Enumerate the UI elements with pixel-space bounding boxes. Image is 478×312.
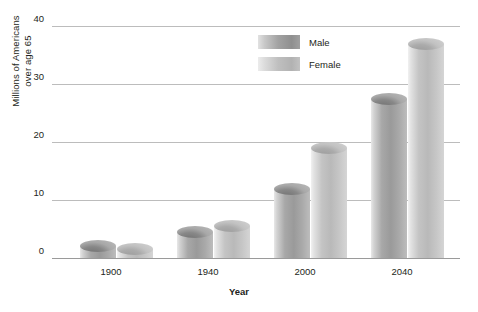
y-tick-label-40: 40: [33, 13, 44, 26]
bar-top-ellipse: [274, 183, 310, 195]
bar-body: [371, 99, 407, 258]
bar-2040-male: [371, 93, 407, 258]
bar-1940-male: [177, 226, 213, 258]
bar-body: [408, 44, 444, 258]
bar-1900-female: [117, 243, 153, 258]
bar-group-1900: [80, 26, 166, 258]
x-tick-label-1900: 1900: [71, 266, 151, 277]
legend-label-male: Male: [309, 37, 330, 48]
bar-body: [311, 148, 347, 258]
x-tick-label-1940: 1940: [168, 266, 248, 277]
legend-item-male: Male: [258, 33, 341, 51]
bar-2000-male: [274, 183, 310, 258]
bar-group-1940: [177, 26, 263, 258]
legend-swatch-male-icon: [258, 35, 300, 49]
legend-item-female: Female: [258, 55, 341, 73]
bar-series-container: [52, 26, 460, 258]
y-tick-label-30: 30: [33, 71, 44, 84]
bar-top-ellipse: [408, 38, 444, 50]
y-tick-label-10: 10: [33, 187, 44, 200]
bar-top-ellipse: [214, 220, 250, 232]
bar-top-ellipse: [117, 243, 153, 255]
gridline-0-baseline: 0: [52, 258, 460, 259]
x-axis-title: Year: [0, 286, 478, 297]
bar-top-ellipse: [80, 240, 116, 252]
bar-1900-male: [80, 240, 116, 258]
y-tick-label-20: 20: [33, 129, 44, 142]
chart-legend: Male Female: [258, 33, 341, 77]
bar-body: [274, 189, 310, 258]
x-tick-label-2040: 2040: [362, 266, 442, 277]
bar-2040-female: [408, 38, 444, 258]
plot-area: 40 30 20 10 0: [52, 26, 460, 258]
y-axis-title-line-1: Millions of Americans: [10, 0, 22, 126]
bar-group-2040: [371, 26, 457, 258]
y-axis-title-line-2: over age 65: [22, 0, 34, 126]
bar-1940-female: [214, 220, 250, 258]
bar-2000-female: [311, 142, 347, 258]
x-tick-label-2000: 2000: [265, 266, 345, 277]
legend-swatch-female-icon: [258, 57, 300, 71]
bar-top-ellipse: [311, 142, 347, 154]
legend-label-female: Female: [309, 59, 341, 70]
y-tick-label-0: 0: [39, 245, 44, 258]
bar-chart: Millions of Americans over age 65 40 30 …: [0, 0, 478, 312]
bar-top-ellipse: [371, 93, 407, 105]
